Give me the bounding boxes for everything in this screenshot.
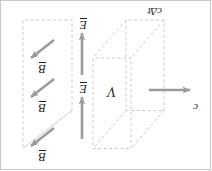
label-speed: c	[193, 102, 198, 113]
label-field-e-bottom-text: E	[80, 18, 87, 32]
figure-canvas: c V cΔt E E B B B	[0, 0, 212, 171]
volume-box	[93, 20, 164, 149]
label-length-text: cΔt	[148, 6, 162, 18]
label-field-e-bottom: E	[80, 18, 87, 31]
b-arrow-top	[31, 128, 54, 146]
label-volume: V	[107, 84, 116, 98]
label-field-b-top-text: B	[39, 150, 46, 164]
b-arrow-mid	[31, 79, 54, 97]
label-field-b-bottom-text: B	[39, 62, 46, 76]
label-field-e-top: E	[80, 82, 87, 95]
label-field-b-bottom: B	[39, 62, 46, 75]
b-arrow-bot	[31, 40, 54, 58]
label-speed-text: c	[193, 102, 198, 114]
label-volume-text: V	[107, 84, 116, 99]
label-field-e-top-text: E	[80, 82, 87, 96]
label-field-b-middle-text: B	[39, 101, 46, 115]
diagram-vector-layer	[0, 0, 212, 171]
physics-diagram: c V cΔt E E B B B	[0, 0, 212, 171]
label-field-b-middle: B	[39, 101, 46, 114]
label-field-b-top: B	[39, 150, 46, 163]
label-length: cΔt	[148, 6, 162, 17]
